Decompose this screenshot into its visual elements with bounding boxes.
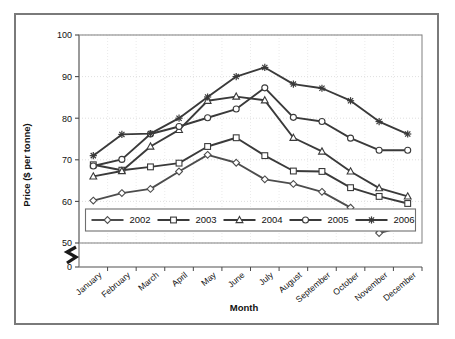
y-tick-label: 70 (62, 155, 72, 165)
x-tick-label: July (257, 269, 276, 287)
legend-label: 2005 (328, 214, 349, 225)
chart-figure-frame: 10090807060500 JanuaryFebruaryMarchApril… (14, 13, 439, 325)
y-tick-label: 90 (62, 72, 72, 82)
y-tick-label: 60 (62, 197, 72, 207)
line-chart: 10090807060500 JanuaryFebruaryMarchApril… (16, 15, 437, 323)
x-axis: JanuaryFebruaryMarchAprilMayJuneJulyAugu… (74, 267, 422, 305)
x-tick-label: May (199, 269, 218, 288)
legend-label: 2004 (262, 214, 283, 225)
x-tick-label: February (99, 269, 132, 299)
x-tick-label: March (136, 270, 161, 293)
y-axis-title: Price ($ per tonne) (21, 123, 32, 206)
y-axis: 10090807060500 (57, 30, 79, 272)
y-tick-label: 50 (62, 238, 72, 248)
y-tick-label: 100 (57, 30, 72, 40)
y-tick-label: 80 (62, 114, 72, 124)
chart-legend: 20022003200420052006 (86, 209, 416, 231)
x-tick-label: April (170, 270, 190, 289)
y-axis-break-icon (67, 247, 76, 263)
x-axis-title: Month (230, 302, 259, 313)
x-tick-label: June (226, 270, 247, 290)
legend-label: 2003 (196, 214, 217, 225)
legend-label: 2006 (394, 214, 415, 225)
legend-label: 2002 (130, 214, 151, 225)
